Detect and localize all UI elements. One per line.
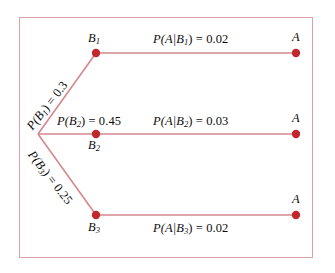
node-b2 [92,130,100,138]
conditional-label-b3: P(A|B3) = 0.02 [153,222,228,235]
node-a3 [292,211,300,219]
conditional-label-b1: P(A|B1) = 0.02 [153,33,228,46]
node-label-b2: B2 [88,139,100,152]
probability-tree-figure: B1 B2 B3 A A A P(B1) = 0.3 P(B2) = 0.45 … [0,0,335,273]
node-label-a1: A [292,31,300,44]
node-label-a3: A [292,193,300,206]
node-a1 [292,49,300,57]
node-label-b1: B1 [88,32,100,45]
node-label-b3: B3 [88,221,100,234]
conditional-label-b2: P(A|B2) = 0.03 [153,115,228,128]
node-label-a2: A [292,112,300,125]
node-b1 [92,49,100,57]
prior-label-b2: P(B2) = 0.45 [57,115,121,128]
node-b3 [92,211,100,219]
node-a2 [292,130,300,138]
